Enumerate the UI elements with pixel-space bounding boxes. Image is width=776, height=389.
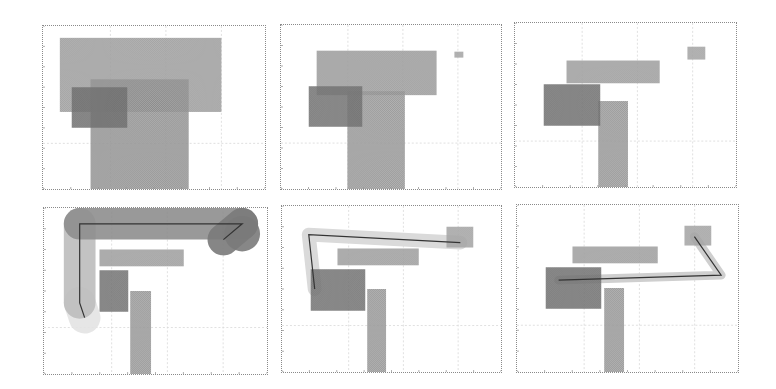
obstacles (100, 250, 184, 375)
panel-3 (514, 22, 737, 188)
panel-2 (280, 24, 502, 190)
panel-canvas (515, 23, 736, 187)
panel-canvas (282, 206, 501, 372)
panel-canvas (44, 208, 267, 374)
panel-canvas (517, 205, 738, 372)
panel-canvas (43, 26, 265, 189)
panel-canvas (281, 25, 501, 189)
panel-6 (516, 204, 739, 373)
panel-4 (43, 207, 268, 375)
obstacles (60, 38, 222, 189)
panel-1 (42, 25, 266, 190)
obstacles (309, 51, 464, 189)
panel-5 (281, 205, 502, 373)
obstacles (546, 226, 712, 372)
obstacles (544, 47, 706, 187)
